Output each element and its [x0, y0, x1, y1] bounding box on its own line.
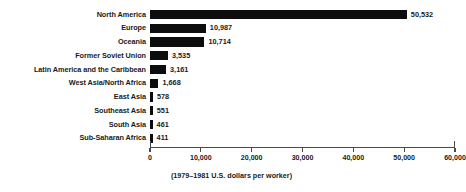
x-axis-caption: (1979–1981 U.S. dollars per worker) [0, 171, 463, 180]
x-axis-tick [454, 148, 455, 152]
bar-value-label: 1,668 [162, 78, 180, 88]
x-axis-tick [149, 148, 150, 152]
bar-row: Latin America and the Caribbean3,161 [0, 65, 463, 79]
bar-row: Former Soviet Union3,535 [0, 51, 463, 65]
x-axis-right-cap [454, 141, 455, 148]
category-label: Former Soviet Union [16, 51, 146, 61]
bar [150, 10, 407, 19]
bar [150, 79, 158, 88]
bar-row: South Asia461 [0, 120, 463, 134]
x-axis-tick [251, 148, 252, 152]
bar-row: East Asia578 [0, 92, 463, 106]
category-label: West Asia/North Africa [16, 78, 146, 88]
bar [150, 106, 153, 115]
x-axis-tick-label: 20,000 [241, 154, 263, 162]
bar [150, 24, 206, 33]
x-axis-tick-label: 40,000 [342, 154, 364, 162]
x-axis-left-cap [150, 141, 151, 148]
category-label: Latin America and the Caribbean [16, 65, 146, 75]
bar-value-label: 3,161 [170, 65, 188, 75]
bar-row: Oceania10,714 [0, 37, 463, 51]
category-label: Oceania [16, 37, 146, 47]
bar-row: West Asia/North Africa1,668 [0, 78, 463, 92]
bar-row: Southeast Asia551 [0, 106, 463, 120]
bar-value-label: 578 [157, 92, 169, 102]
bar-row: Sub-Saharan Africa411 [0, 133, 463, 147]
bar-value-label: 461 [157, 120, 169, 130]
bar [150, 92, 153, 101]
category-label: East Asia [16, 92, 146, 102]
x-axis-tick [302, 148, 303, 152]
category-label: Europe [16, 23, 146, 33]
x-axis-tick-label: 30,000 [292, 154, 314, 162]
x-axis-tick-label: 60,000 [444, 154, 466, 162]
bar-row: Europe10,987 [0, 23, 463, 37]
bar-value-label: 10,987 [210, 23, 232, 33]
x-axis-tick-label: 10,000 [190, 154, 212, 162]
x-axis-tick-label: 50,000 [393, 154, 415, 162]
category-label: Southeast Asia [16, 106, 146, 116]
bar-value-label: 10,714 [208, 37, 230, 47]
bar-value-label: 3,535 [172, 51, 190, 61]
x-axis-tick [353, 148, 354, 152]
category-label: South Asia [16, 120, 146, 130]
category-label: North America [16, 10, 146, 20]
x-axis-tick [200, 148, 201, 152]
bar [150, 65, 166, 74]
bar [150, 120, 153, 129]
category-label: Sub-Saharan Africa [16, 133, 146, 143]
bar-value-label: 50,532 [411, 10, 433, 20]
bar [150, 37, 204, 46]
bar [150, 51, 168, 60]
bar-value-label: 411 [157, 133, 169, 143]
bar-row: North America50,532 [0, 10, 463, 24]
x-axis-tick-label: 0 [148, 154, 152, 162]
bar-value-label: 551 [157, 106, 169, 116]
x-axis-tick [404, 148, 405, 152]
